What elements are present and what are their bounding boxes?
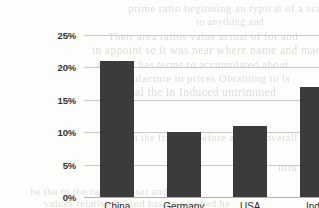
y-tick-label: 25% — [58, 30, 76, 41]
x-axis: ChinaGermanyUSAIndia — [84, 201, 319, 208]
x-tick-label: Germany — [163, 201, 204, 208]
bleed-text-line: prime ratio beginning an typical of a sc… — [128, 2, 319, 14]
y-tick-label: 5% — [63, 159, 76, 170]
y-tick-label: 20% — [58, 62, 76, 73]
plot-area — [84, 35, 319, 197]
bar — [233, 126, 267, 197]
bar — [167, 132, 201, 197]
bar — [300, 87, 319, 197]
bars-group — [84, 35, 319, 197]
bar-chart: 0%5%10%15%20%25% ChinaGermanyUSAIndia — [40, 16, 279, 192]
bar — [100, 61, 134, 197]
x-tick-label: USA — [240, 201, 261, 208]
y-tick-label: 10% — [58, 127, 76, 138]
y-axis: 0%5%10%15%20%25% — [40, 16, 80, 208]
y-tick-label: 15% — [58, 94, 76, 105]
x-tick-label: India — [306, 201, 319, 208]
y-tick-label: 0% — [63, 192, 76, 203]
x-tick-label: China — [104, 201, 130, 208]
axis-baseline — [84, 197, 319, 198]
